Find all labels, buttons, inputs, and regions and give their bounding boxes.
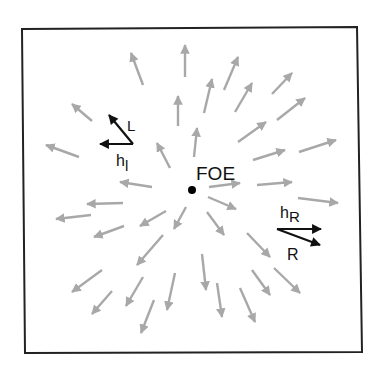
flow-arrow xyxy=(217,283,222,317)
flow-arrow xyxy=(253,150,285,160)
flow-arrow xyxy=(207,212,224,235)
flow-arrow xyxy=(224,57,238,90)
flow-arrow xyxy=(240,288,255,322)
flow-arrow xyxy=(194,128,197,157)
flow-arrow xyxy=(126,277,143,306)
diagram-canvas: FOE L hl hR R xyxy=(0,0,379,368)
vector-R-arrow xyxy=(277,229,320,245)
flow-arrow xyxy=(272,73,292,94)
flow-arrow xyxy=(94,226,124,237)
right-vector-pair: hR R xyxy=(277,204,321,263)
vector-L-label: L xyxy=(127,117,135,134)
flow-arrow xyxy=(202,254,206,290)
flow-arrow xyxy=(238,122,266,142)
flow-arrow xyxy=(131,53,143,85)
vector-h-l-label: hl xyxy=(116,152,128,174)
foe-point xyxy=(188,186,196,194)
flow-arrow xyxy=(299,140,336,152)
flow-arrow xyxy=(235,83,252,112)
flow-arrow xyxy=(120,182,152,187)
flow-arrow xyxy=(247,233,270,257)
flow-arrow xyxy=(174,207,186,229)
flow-arrow xyxy=(204,79,212,113)
flow-arrow xyxy=(137,235,163,265)
vector-R-label: R xyxy=(287,246,299,263)
flow-arrow xyxy=(277,98,305,120)
flow-arrow xyxy=(252,270,270,295)
flow-arrow xyxy=(87,203,123,204)
left-vector-pair: L hl xyxy=(100,115,135,174)
flow-arrow xyxy=(141,300,154,333)
flow-arrow xyxy=(92,291,112,314)
flow-field-diagram: FOE L hl hR R xyxy=(0,0,379,368)
flow-arrow xyxy=(56,215,91,219)
flow-arrow xyxy=(167,273,175,310)
flow-arrow xyxy=(208,197,236,209)
flow-arrow xyxy=(274,268,300,293)
vector-h-R-label: hR xyxy=(280,204,300,225)
flow-arrow xyxy=(46,145,79,157)
flow-arrow xyxy=(298,198,338,203)
flow-arrow xyxy=(72,104,92,121)
foe-label: FOE xyxy=(196,163,235,184)
flow-arrow xyxy=(157,143,170,168)
flow-arrow xyxy=(140,211,166,226)
flow-arrow xyxy=(72,270,102,292)
flow-arrow xyxy=(257,182,292,185)
